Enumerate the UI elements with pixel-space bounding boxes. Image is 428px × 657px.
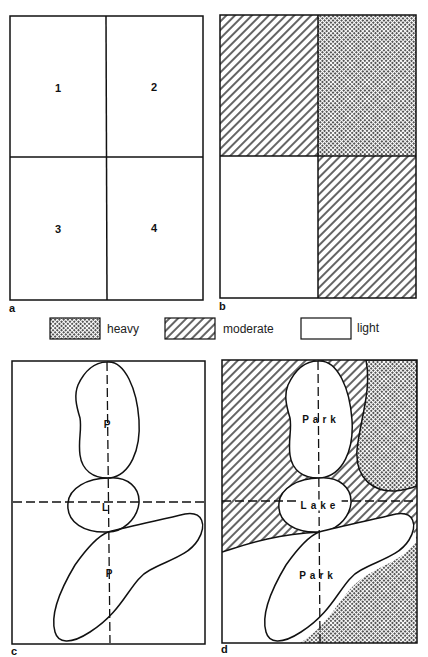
panel-caption-c: c [11, 645, 17, 657]
quadrant-label-1: 1 [55, 82, 61, 94]
legend-label-heavy: heavy [107, 322, 139, 336]
quadrant-label-3: 3 [55, 223, 61, 235]
legend-label-light: light [357, 321, 379, 335]
panel-caption-a: a [9, 302, 15, 314]
panel-a-grid [10, 16, 203, 300]
legend-swatch-light [301, 318, 351, 339]
feature-label-lake-full: Lake [299, 500, 342, 511]
legend-label-moderate: moderate [223, 322, 274, 336]
quadrant-label-4: 4 [151, 222, 157, 234]
panel-caption-b: b [219, 300, 226, 312]
park-south-outline [54, 514, 203, 641]
feature-label-park-south: P [106, 568, 113, 579]
panel-caption-d: d [221, 643, 228, 655]
panel-b-density [220, 15, 416, 298]
quadrant-label-2: 2 [151, 81, 157, 93]
panel-c-features [12, 361, 205, 644]
quadrant-1-moderate [220, 15, 318, 156]
feature-label-lake: L [102, 502, 108, 513]
legend [50, 318, 351, 339]
quadrant-4-moderate [318, 156, 416, 298]
feature-label-park-south-full: Park [299, 570, 337, 581]
feature-label-park-north: P [104, 419, 111, 430]
quadrant-2-heavy [318, 15, 416, 156]
feature-label-park-north-full: Park [302, 414, 340, 425]
legend-swatch-heavy [50, 318, 100, 339]
quadrant-3-light [220, 156, 318, 298]
legend-swatch-moderate [165, 318, 215, 339]
